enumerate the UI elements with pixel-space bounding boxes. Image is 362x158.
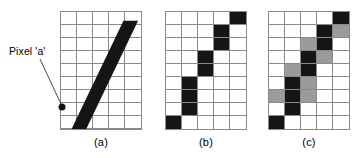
grid-cell xyxy=(230,116,246,129)
panel-c-antialiased-raster xyxy=(268,11,350,130)
grid-cell xyxy=(285,51,301,64)
grid-cell xyxy=(301,64,317,77)
grid-cell xyxy=(317,38,333,51)
grid-cell xyxy=(109,64,125,77)
grid-cell xyxy=(182,90,198,103)
grid-cell xyxy=(109,90,125,103)
grid-cell xyxy=(317,12,333,25)
grid-cell xyxy=(198,25,214,38)
grid-cell xyxy=(301,12,317,25)
grid-cell xyxy=(230,64,246,77)
panel-b-aliased-raster xyxy=(165,11,247,130)
grid-cell xyxy=(269,38,285,51)
grid-cell xyxy=(317,90,333,103)
grid-cell xyxy=(333,64,349,77)
grid-row xyxy=(61,25,141,38)
grid-row xyxy=(61,51,141,64)
grid-cell xyxy=(285,12,301,25)
grid-cell xyxy=(77,64,93,77)
grid-cell xyxy=(230,77,246,90)
grid-cell xyxy=(301,25,317,38)
grid-cell xyxy=(182,64,198,77)
grid-row xyxy=(269,116,349,129)
grid-cell xyxy=(269,64,285,77)
grid-cell xyxy=(77,38,93,51)
grid-row xyxy=(166,51,246,64)
grid-cell xyxy=(125,64,141,77)
grid-row xyxy=(166,90,246,103)
grid-cell xyxy=(198,38,214,51)
panel-a-continuous-line xyxy=(60,11,142,130)
grid-cell xyxy=(125,12,141,25)
grid-cell xyxy=(125,77,141,90)
grid-cell xyxy=(301,116,317,129)
grid-cell xyxy=(77,90,93,103)
grid-cell xyxy=(166,12,182,25)
grid-cell xyxy=(109,77,125,90)
grid-cell xyxy=(317,64,333,77)
grid-row xyxy=(166,25,246,38)
grid-row xyxy=(269,12,349,25)
grid-cell xyxy=(166,116,182,129)
grid-cell xyxy=(269,90,285,103)
grid-cell xyxy=(333,25,349,38)
grid-cell xyxy=(285,64,301,77)
grid-cell xyxy=(61,90,77,103)
grid-cell xyxy=(61,51,77,64)
grid-row xyxy=(166,38,246,51)
grid-cell xyxy=(317,103,333,116)
grid-cell xyxy=(214,51,230,64)
grid-cell xyxy=(93,38,109,51)
grid-cell xyxy=(333,38,349,51)
grid-cell xyxy=(93,12,109,25)
grid-row xyxy=(269,103,349,116)
grid-cell xyxy=(166,103,182,116)
grid-cell xyxy=(182,103,198,116)
grid-cell xyxy=(333,103,349,116)
grid-row xyxy=(61,90,141,103)
grid-row xyxy=(166,116,246,129)
grid-cell xyxy=(166,77,182,90)
grid-cell xyxy=(125,25,141,38)
grid-cell xyxy=(93,103,109,116)
grid-cell xyxy=(77,25,93,38)
grid-cell xyxy=(285,25,301,38)
grid-cell xyxy=(109,25,125,38)
grid-cell xyxy=(182,38,198,51)
grid-cell xyxy=(93,25,109,38)
figure-raster-line-antialiasing: (a) (b) (c) Pixel 'a' xyxy=(0,0,362,158)
grid-cell xyxy=(125,38,141,51)
grid-cell xyxy=(214,64,230,77)
grid-cell xyxy=(301,51,317,64)
grid-cell xyxy=(285,103,301,116)
pixel-grid-a xyxy=(60,11,142,130)
grid-cell xyxy=(198,116,214,129)
grid-cell xyxy=(109,38,125,51)
caption-a: (a) xyxy=(60,136,142,148)
grid-cell xyxy=(214,103,230,116)
grid-cell xyxy=(198,51,214,64)
grid-cell xyxy=(77,116,93,129)
grid-cell xyxy=(166,38,182,51)
grid-cell xyxy=(214,12,230,25)
pixel-grid-b xyxy=(165,11,247,130)
grid-cell xyxy=(109,51,125,64)
grid-row xyxy=(61,12,141,25)
grid-cell xyxy=(166,64,182,77)
grid-cell xyxy=(301,38,317,51)
pixel-a-label: Pixel 'a' xyxy=(9,45,45,57)
grid-cell xyxy=(333,12,349,25)
grid-cell xyxy=(230,51,246,64)
grid-cell xyxy=(333,77,349,90)
grid-cell xyxy=(301,103,317,116)
grid-cell xyxy=(214,116,230,129)
grid-row xyxy=(166,64,246,77)
grid-cell xyxy=(269,51,285,64)
grid-cell xyxy=(182,25,198,38)
grid-row xyxy=(269,25,349,38)
grid-cell xyxy=(333,51,349,64)
grid-cell xyxy=(77,77,93,90)
grid-cell xyxy=(333,90,349,103)
grid-cell xyxy=(285,116,301,129)
grid-cell xyxy=(269,116,285,129)
